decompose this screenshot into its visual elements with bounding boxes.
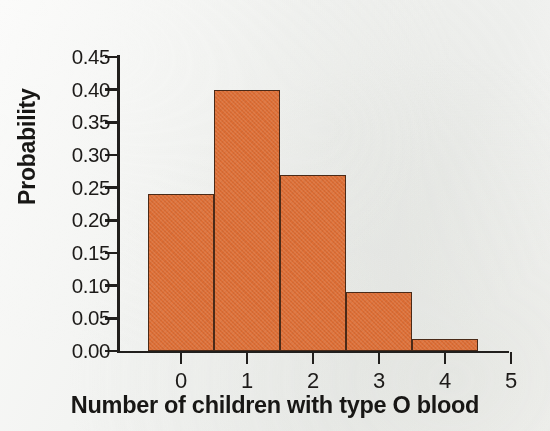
y-tick-label: 0.30 bbox=[72, 143, 110, 167]
y-tick-label: 0.05 bbox=[72, 306, 110, 330]
probability-histogram-figure: 0.000.050.100.150.200.250.300.350.400.45… bbox=[0, 0, 550, 431]
bar-4 bbox=[412, 339, 478, 351]
x-tick-label: 3 bbox=[373, 368, 385, 394]
y-tick-label: 0.45 bbox=[72, 45, 110, 69]
x-tick-mark bbox=[312, 352, 315, 364]
y-tick-label: 0.40 bbox=[72, 78, 110, 102]
plot-area: 0.000.050.100.150.200.250.300.350.400.45… bbox=[0, 0, 550, 431]
x-tick-label: 2 bbox=[307, 368, 319, 394]
x-tick-mark bbox=[510, 352, 513, 364]
y-tick-label: 0.10 bbox=[72, 274, 110, 298]
x-axis-title: Number of children with type O blood bbox=[0, 392, 550, 419]
bar-0 bbox=[148, 194, 214, 351]
x-tick-label: 4 bbox=[439, 368, 451, 394]
x-tick-mark bbox=[246, 352, 249, 364]
bar-2 bbox=[280, 175, 346, 351]
bar-1 bbox=[214, 90, 280, 351]
x-tick-label: 0 bbox=[175, 368, 187, 394]
x-tick-mark bbox=[180, 352, 183, 364]
y-axis-title: Probability bbox=[14, 88, 41, 205]
x-tick-mark bbox=[444, 352, 447, 364]
x-tick-mark bbox=[378, 352, 381, 364]
y-tick-label: 0.15 bbox=[72, 241, 110, 265]
y-tick-label: 0.20 bbox=[72, 208, 110, 232]
x-tick-label: 5 bbox=[505, 368, 517, 394]
bar-3 bbox=[346, 292, 412, 351]
x-tick-label: 1 bbox=[241, 368, 253, 394]
y-axis-line bbox=[117, 55, 120, 353]
y-tick-label: 0.35 bbox=[72, 110, 110, 134]
y-tick-label: 0.25 bbox=[72, 176, 110, 200]
y-tick-label: 0.00 bbox=[72, 339, 110, 363]
